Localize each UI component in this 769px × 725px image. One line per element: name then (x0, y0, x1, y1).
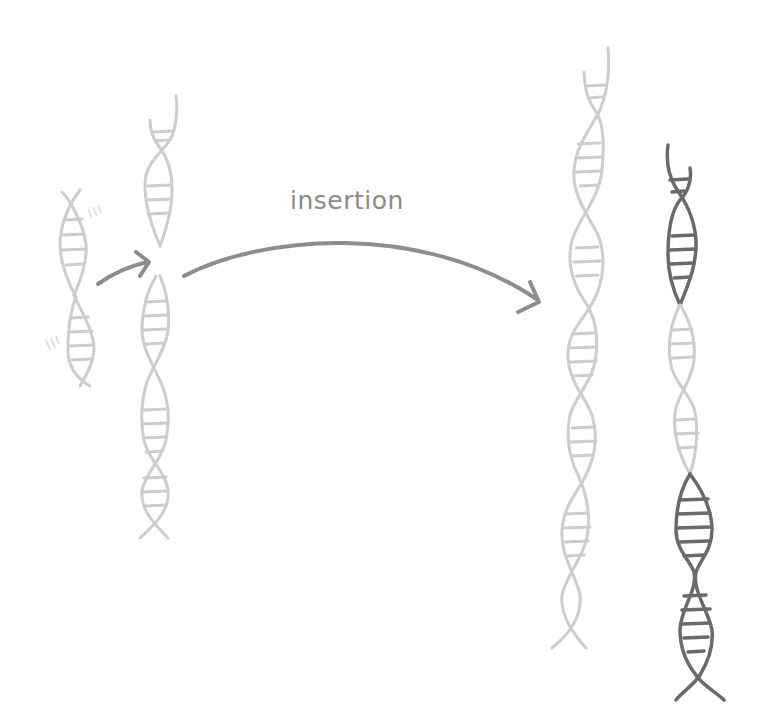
motion-lines-icon (46, 205, 101, 350)
diagram-canvas (0, 0, 769, 725)
insertion-arrow-icon (184, 243, 539, 312)
dna-fragment (60, 190, 94, 386)
original-segment-middle (669, 305, 698, 474)
inserted-segment-top (667, 145, 696, 305)
small-arrow-icon (98, 252, 149, 284)
inserted-segment-bottom (676, 474, 724, 700)
dna-result-light (552, 48, 609, 648)
insertion-label: insertion (290, 186, 404, 215)
dna-target-broken (140, 96, 177, 538)
dna-result-highlighted (667, 145, 724, 700)
